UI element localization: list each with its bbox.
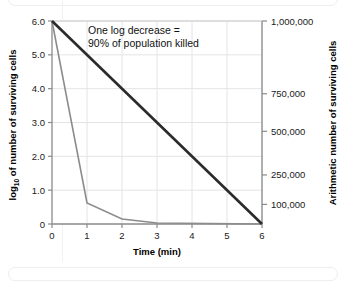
ytick-label-2.0: 2.0 — [32, 151, 45, 162]
y-axis-left-title-prefix: log — [7, 186, 18, 200]
xtick-label-1: 1 — [84, 230, 89, 241]
y2tick-label-500,000: 500,000 — [271, 126, 305, 137]
y-axis-right-tick-labels: 100,000250,000500,000750,0001,000,000 — [271, 16, 313, 210]
x-axis-title: Time (min) — [133, 246, 181, 257]
y2tick-label-750,000: 750,000 — [271, 88, 305, 99]
ytick-label-1.0: 1.0 — [32, 185, 45, 196]
y-axis-left-title: log10 of number of surviving cells — [7, 50, 20, 201]
y-axis-right-ticks — [262, 21, 267, 204]
xtick-label-0: 0 — [49, 230, 54, 241]
y-axis-right-title: Arithmetic number of surviving cells — [327, 41, 338, 206]
y2tick-label-1,000,000: 1,000,000 — [271, 16, 313, 27]
ytick-label-5.0: 5.0 — [32, 49, 45, 60]
xtick-label-6: 6 — [259, 230, 264, 241]
y2tick-label-250,000: 250,000 — [271, 169, 305, 180]
ytick-label-3.0: 3.0 — [32, 117, 45, 128]
y-axis-left-tick-labels: 01.02.03.04.05.06.0 — [32, 16, 45, 230]
y2tick-label-100,000: 100,000 — [271, 199, 305, 210]
xtick-label-5: 5 — [224, 230, 229, 241]
svg-text:log10 of number of surviving c: log10 of number of surviving cells — [7, 50, 20, 201]
xtick-label-4: 4 — [189, 230, 194, 241]
ytick-label-6.0: 6.0 — [32, 16, 45, 27]
ytick-label-0: 0 — [40, 219, 45, 230]
annotation-line-2: 90% of population killed — [88, 37, 199, 49]
y-axis-left-title-suffix: of number of surviving cells — [7, 50, 18, 179]
xtick-label-2: 2 — [119, 230, 124, 241]
ytick-label-4.0: 4.0 — [32, 83, 45, 94]
xtick-label-3: 3 — [154, 230, 159, 241]
annotation-line-1: One log decrease = — [88, 24, 180, 36]
x-axis-tick-labels: 0123456 — [49, 230, 264, 241]
